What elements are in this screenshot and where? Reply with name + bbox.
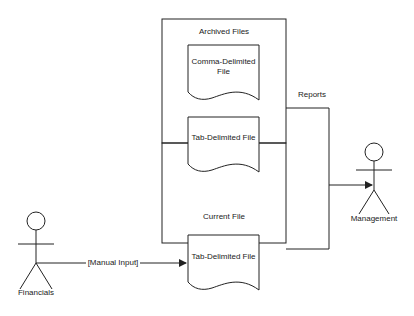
management-label: Management	[346, 214, 402, 224]
manual-input-label: [Manual Input]	[86, 258, 140, 268]
reports-edge[interactable]	[286, 108, 329, 249]
current-tab-delimited-document-shape[interactable]	[188, 235, 259, 290]
financials-actor-icon[interactable]	[18, 212, 54, 289]
reports-label: Reports	[292, 90, 332, 100]
management-actor-icon[interactable]	[356, 143, 392, 214]
diagram-canvas	[0, 0, 414, 316]
archived-tab-delimited-label: Tab-Delimited File	[188, 133, 259, 143]
current-file-title: Current File	[162, 212, 286, 222]
comma-delimited-label-line2: File	[188, 67, 259, 77]
archived-files-title: Archived Files	[162, 27, 286, 37]
current-tab-delimited-label: Tab-Delimited File	[188, 252, 259, 262]
financials-label: Financials	[10, 288, 62, 298]
comma-delimited-label-line1: Comma-Delimited	[188, 57, 259, 67]
archived-tab-delimited-document-shape[interactable]	[188, 117, 259, 172]
